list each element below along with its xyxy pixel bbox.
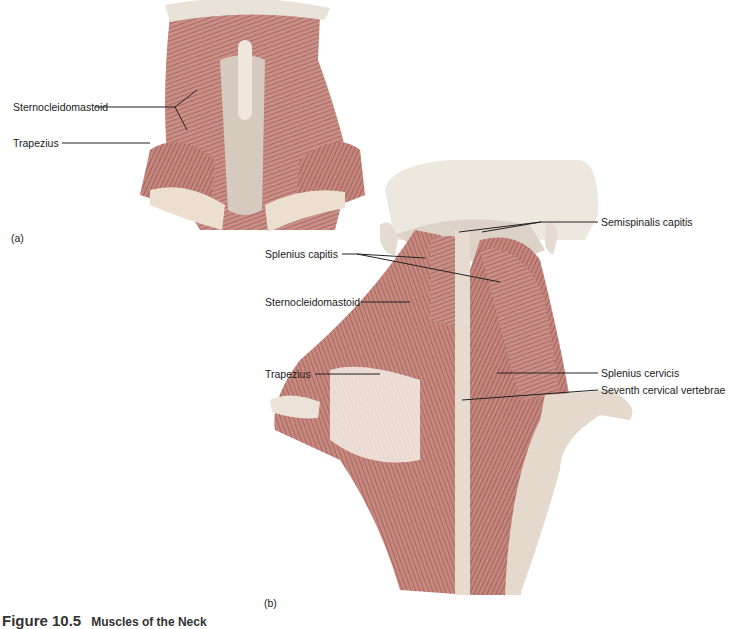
label-semispinalis-capitis: Semispinalis capitis [601, 216, 693, 228]
label-trapezius-b: Trapezius [265, 368, 311, 380]
label-sternocleidomastoid-a: Sternocleidomastoid [13, 101, 108, 113]
anterior-neck-illustration [140, 0, 365, 232]
label-trapezius-a: Trapezius [13, 137, 59, 149]
label-seventh-cervical-vertebrae: Seventh cervical vertebrae [601, 384, 725, 396]
figure-title: Muscles of the Neck [91, 615, 206, 629]
panel-label-a: (a) [11, 232, 24, 244]
figure-number: Figure 10.5 [2, 612, 81, 629]
label-sternocleidomastoid-b: Sternocleidomastoid [265, 296, 360, 308]
panel-label-b: (b) [264, 597, 277, 609]
figure-caption: Figure 10.5Muscles of the Neck [2, 612, 207, 629]
label-splenius-cervicis: Splenius cervicis [601, 367, 679, 379]
label-splenius-capitis: Splenius capitis [265, 248, 338, 260]
